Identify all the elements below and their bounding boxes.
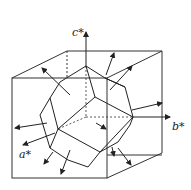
face-normal-arrows [15, 53, 162, 174]
a-star-label: a* [19, 148, 32, 161]
crystal-polyhedron [40, 66, 133, 167]
c-star-label: c* [72, 26, 84, 39]
b-star-label: b* [172, 120, 185, 133]
crystal-diagram: c* b* a* [0, 0, 191, 190]
